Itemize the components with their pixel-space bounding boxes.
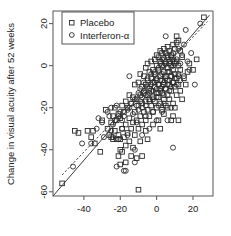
data-point-interferon: [183, 27, 188, 32]
data-point-interferon: [189, 51, 194, 56]
data-point-placebo: [129, 154, 134, 159]
chart-container: -40-20020 200-20-40-60 Change in visual …: [0, 0, 231, 236]
data-point-interferon: [154, 118, 159, 123]
data-point-placebo: [98, 150, 103, 155]
data-point-interferon: [163, 34, 168, 39]
data-point-placebo: [151, 122, 156, 127]
legend-label-interferon: Interferon-α: [80, 30, 130, 41]
y-axis-label: Change in visual acuity after 52 weeks: [5, 23, 16, 185]
data-point-interferon: [120, 126, 125, 131]
y-tick-label: -60: [38, 185, 49, 199]
data-point-interferon: [140, 133, 145, 138]
data-point-interferon: [171, 145, 176, 150]
y-tick-label: -40: [38, 143, 49, 157]
data-point-placebo: [194, 57, 199, 62]
x-tick-label: 0: [154, 203, 159, 214]
data-point-interferon: [80, 141, 85, 146]
x-axis-ticks: -40-20020: [77, 196, 198, 214]
data-point-placebo: [138, 139, 143, 144]
legend-label-placebo: Placebo: [80, 17, 114, 28]
x-tick-label: -20: [113, 203, 127, 214]
data-point-placebo: [183, 82, 188, 87]
data-point-placebo: [176, 118, 181, 123]
data-point-interferon: [127, 74, 132, 79]
data-point-placebo: [140, 154, 145, 159]
data-point-interferon: [151, 109, 156, 114]
y-axis-ticks: 200-20-40-60: [38, 18, 54, 198]
data-point-placebo: [133, 133, 138, 138]
x-tick-label: -40: [77, 203, 91, 214]
x-tick-label: 20: [188, 203, 199, 214]
legend: Placebo Interferon-α: [62, 12, 134, 44]
scatter-plot: -40-20020 200-20-40-60 Change in visual …: [0, 0, 231, 236]
data-point-placebo: [123, 160, 128, 165]
y-tick-label: 0: [38, 63, 49, 68]
data-point-placebo: [89, 135, 94, 140]
data-point-placebo: [136, 187, 141, 192]
data-point-interferon: [192, 82, 197, 87]
data-point-placebo: [145, 137, 150, 142]
y-tick-label: -20: [38, 101, 49, 115]
data-point-placebo: [180, 97, 185, 102]
data-point-placebo: [85, 129, 90, 134]
data-point-placebo: [158, 126, 163, 131]
y-tick-label: 20: [38, 18, 49, 29]
